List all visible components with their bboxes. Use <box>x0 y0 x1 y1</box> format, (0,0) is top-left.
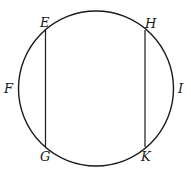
label-f: F <box>3 81 14 96</box>
label-i: I <box>177 81 184 96</box>
label-e: E <box>39 15 50 30</box>
label-h: H <box>144 16 157 31</box>
circle <box>19 11 174 166</box>
circle-chords-diagram: E H F I G K <box>0 0 191 173</box>
label-k: K <box>140 149 152 164</box>
label-g: G <box>40 149 50 164</box>
